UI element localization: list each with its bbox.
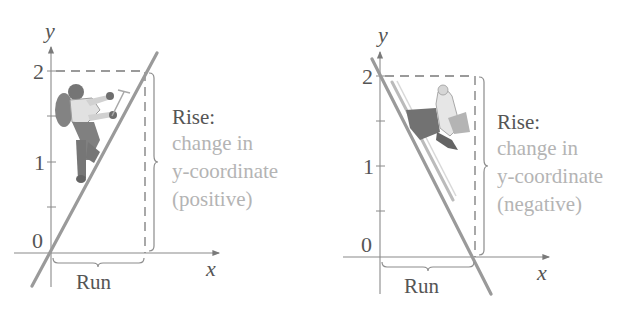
y-tick-label-2: 2 (362, 64, 373, 89)
y-axis-label: y (43, 18, 55, 43)
run-brace (382, 262, 474, 271)
slope-diagram: 2 1 0 y x Run R (0, 0, 623, 322)
rise-brace (149, 73, 158, 251)
rise-desc-line-1: change in (497, 136, 579, 160)
rise-desc-line-2: y-coordinate (497, 164, 603, 188)
y-tick-label-1: 1 (363, 154, 374, 179)
y-tick-label-0: 0 (32, 228, 43, 253)
skier-icon (392, 81, 470, 200)
run-label: Run (76, 270, 112, 294)
x-axis-label: x (205, 256, 216, 281)
rise-desc-line-1: change in (172, 131, 254, 155)
x-axis-label: x (536, 260, 547, 285)
rise-title: Rise: (497, 110, 540, 134)
panel-positive-slope: 2 1 0 y x Run R (14, 18, 278, 294)
negative-slope-line (372, 59, 491, 294)
run-brace (53, 258, 144, 267)
panel-negative-slope: 2 1 0 y x Run Rise: change in y-coordina… (343, 22, 603, 298)
y-tick-label-0: 0 (361, 232, 372, 257)
y-tick-label-2: 2 (33, 59, 44, 84)
rise-desc-line-3: (negative) (497, 192, 582, 216)
climber-icon (55, 84, 130, 183)
rise-desc-line-3: (positive) (172, 187, 252, 211)
y-axis-label: y (376, 22, 388, 47)
rise-title: Rise: (172, 105, 215, 129)
run-label: Run (404, 274, 440, 298)
rise-run-guide (385, 76, 475, 257)
rise-brace (479, 77, 488, 255)
rise-desc-line-2: y-coordinate (172, 159, 278, 183)
y-tick-label-1: 1 (34, 150, 45, 175)
